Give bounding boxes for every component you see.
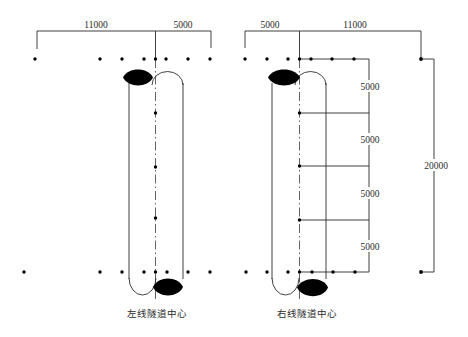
left-tunnel-top-blob — [123, 70, 153, 86]
monitoring-point — [286, 270, 289, 273]
dim-label-segment-2: 5000 — [361, 135, 380, 145]
monitoring-point — [98, 270, 101, 273]
right-tunnel-label: 右线隧道中心 — [277, 308, 337, 319]
monitoring-point — [120, 270, 123, 273]
dim-label-total: 20000 — [424, 161, 448, 171]
monitoring-point — [419, 57, 423, 61]
dim-label-left-11000: 11000 — [84, 20, 108, 30]
monitoring-point — [120, 57, 123, 60]
monitoring-point — [208, 270, 211, 273]
dim-label-segment-1: 5000 — [361, 82, 380, 92]
dim-label-right-11000: 11000 — [343, 20, 367, 30]
dim-label-right-5000: 5000 — [261, 20, 280, 30]
tunnel-invert-arc — [129, 278, 156, 295]
monitoring-point — [330, 57, 333, 60]
monitoring-point — [186, 270, 189, 273]
left-tunnel-label: 左线隧道中心 — [127, 308, 187, 319]
monitoring-point — [243, 57, 246, 60]
right-tunnel-bottom-blob — [297, 279, 328, 296]
monitoring-point — [154, 111, 157, 114]
tunnel-crown-arc — [152, 72, 183, 85]
monitoring-point — [142, 57, 145, 60]
dim-label-segment-3: 5000 — [361, 189, 380, 199]
monitoring-point — [154, 270, 157, 273]
monitoring-point — [298, 218, 301, 221]
monitoring-point — [265, 57, 268, 60]
monitoring-point — [298, 111, 301, 114]
dimension-chain-top-left — [37, 31, 211, 59]
monitoring-point — [310, 270, 313, 273]
monitoring-point — [33, 57, 36, 60]
monitoring-point — [142, 270, 145, 273]
monitoring-point — [265, 270, 268, 273]
monitoring-point — [298, 57, 301, 60]
monitoring-point — [419, 270, 423, 274]
monitoring-point — [309, 57, 312, 60]
dimension-chain-top-right — [245, 31, 421, 59]
monitoring-point — [186, 57, 189, 60]
left-tunnel-outline — [129, 72, 183, 295]
monitoring-point — [286, 57, 289, 60]
monitoring-point — [154, 216, 157, 219]
monitoring-point — [22, 270, 25, 273]
dim-label-left-5000: 5000 — [174, 20, 193, 30]
tunnel-monitoring-diagram: 11000 5000 5000 11000 5000 5000 5000 500… — [0, 0, 468, 337]
monitoring-point — [331, 270, 334, 273]
monitoring-point — [154, 165, 157, 168]
monitoring-point — [165, 270, 168, 273]
tunnel-end-markers — [123, 70, 328, 297]
monitoring-point — [164, 57, 167, 60]
monitoring-point — [154, 57, 157, 60]
monitoring-point — [353, 270, 356, 273]
diagram-svg: 11000 5000 5000 11000 5000 5000 5000 500… — [0, 0, 468, 337]
dim-label-segment-4: 5000 — [361, 242, 380, 252]
left-tunnel-bottom-blob — [153, 279, 183, 296]
monitoring-point — [244, 270, 247, 273]
monitoring-point — [208, 57, 211, 60]
monitoring-point — [298, 270, 301, 273]
monitoring-point — [352, 57, 355, 60]
monitoring-point — [298, 164, 301, 167]
tunnel-invert-arc — [272, 278, 299, 295]
right-tunnel-outline — [272, 72, 326, 296]
monitoring-point — [98, 57, 101, 60]
